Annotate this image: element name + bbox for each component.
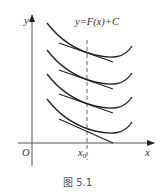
- equation-label: y=F(x)+C: [74, 16, 120, 28]
- y-axis-label: y: [23, 14, 29, 26]
- x0-label: x0: [77, 147, 87, 160]
- tangent-line-2: [59, 70, 113, 89]
- curve-1-path: [47, 23, 132, 57]
- x0-subscript: 0: [83, 152, 87, 160]
- antiderivative-family-diagram: y y=F(x)+C O x0 x 图 5.1: [0, 0, 163, 194]
- tangent-line-1: [59, 43, 113, 62]
- curve-1: [47, 23, 132, 62]
- tangent-line-3: [59, 94, 113, 113]
- curve-3-path: [47, 74, 132, 108]
- figure-caption: 图 5.1: [63, 177, 92, 188]
- x-axis-label: x: [144, 146, 150, 158]
- tangent-line-4: [59, 119, 113, 143]
- curve-2-path: [47, 50, 132, 84]
- curve-4: [47, 99, 132, 143]
- origin-label: O: [22, 147, 30, 158]
